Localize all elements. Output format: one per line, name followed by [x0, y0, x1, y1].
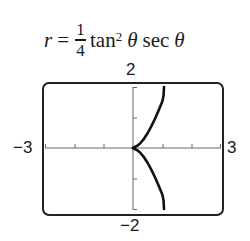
y-max-label: 2 [126, 60, 135, 80]
graph-window [0, 0, 250, 241]
x-min-label: −3 [13, 138, 32, 158]
polar-curve-lower [133, 148, 164, 209]
x-max-label: 3 [227, 138, 236, 158]
y-min-label: −2 [120, 216, 139, 236]
polar-curve-upper [133, 87, 164, 148]
